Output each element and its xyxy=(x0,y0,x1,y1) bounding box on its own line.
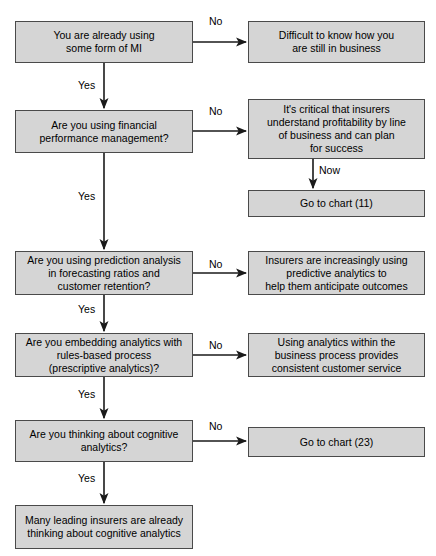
node-label: Many leading insurers are already thinki… xyxy=(25,514,183,540)
node-financial-performance-management: Are you using financial performance mana… xyxy=(15,110,193,153)
node-already-using-mi: You are already using some form of MI xyxy=(15,21,193,63)
edge-label-no-1: No xyxy=(209,15,222,27)
node-label: Insurers are increasingly using predicti… xyxy=(265,254,407,293)
node-go-to-chart-11: Go to chart (11) xyxy=(248,190,425,217)
edge-label-yes-1: Yes xyxy=(78,79,95,91)
node-label: Are you using prediction analysis in for… xyxy=(27,254,181,293)
node-label: Go to chart (23) xyxy=(300,436,374,449)
node-label: It's critical that insurers understand p… xyxy=(267,103,406,155)
node-insurers-predictive-analytics: Insurers are increasingly using predicti… xyxy=(248,251,425,295)
node-embedding-analytics-rules-based: Are you embedding analytics with rules-b… xyxy=(15,333,193,377)
node-label: Are you using financial performance mana… xyxy=(40,119,169,145)
node-critical-insurers-profitability: It's critical that insurers understand p… xyxy=(248,99,425,159)
edge-label-no-2: No xyxy=(209,105,222,117)
node-label: Using analytics within the business proc… xyxy=(272,336,402,375)
node-prediction-analysis-forecasting: Are you using prediction analysis in for… xyxy=(15,251,193,295)
node-thinking-about-cognitive-analytics: Are you thinking about cognitive analyti… xyxy=(15,420,193,462)
node-label: Are you embedding analytics with rules-b… xyxy=(26,336,182,375)
edge-label-no-3: No xyxy=(209,258,222,270)
edge-label-no-4: No xyxy=(209,339,222,351)
node-analytics-within-business-process: Using analytics within the business proc… xyxy=(248,333,425,377)
node-label: Are you thinking about cognitive analyti… xyxy=(30,428,179,454)
edge-label-yes-2: Yes xyxy=(78,190,95,202)
edge-label-yes-4: Yes xyxy=(78,388,95,400)
flowchart-diagram: You are already using some form of MIDif… xyxy=(0,0,436,556)
node-difficult-to-know: Difficult to know how you are still in b… xyxy=(248,21,425,63)
node-label: You are already using some form of MI xyxy=(53,29,154,55)
node-many-leading-insurers: Many leading insurers are already thinki… xyxy=(15,505,193,549)
edge-label-yes-5: Yes xyxy=(78,472,95,484)
edge-label-no-5: No xyxy=(209,420,222,432)
node-label: Difficult to know how you are still in b… xyxy=(279,29,394,55)
node-label: Go to chart (11) xyxy=(300,197,373,210)
node-go-to-chart-23: Go to chart (23) xyxy=(248,427,425,457)
edge-label-yes-3: Yes xyxy=(78,303,95,315)
edge-label-now-1: Now xyxy=(319,164,340,176)
